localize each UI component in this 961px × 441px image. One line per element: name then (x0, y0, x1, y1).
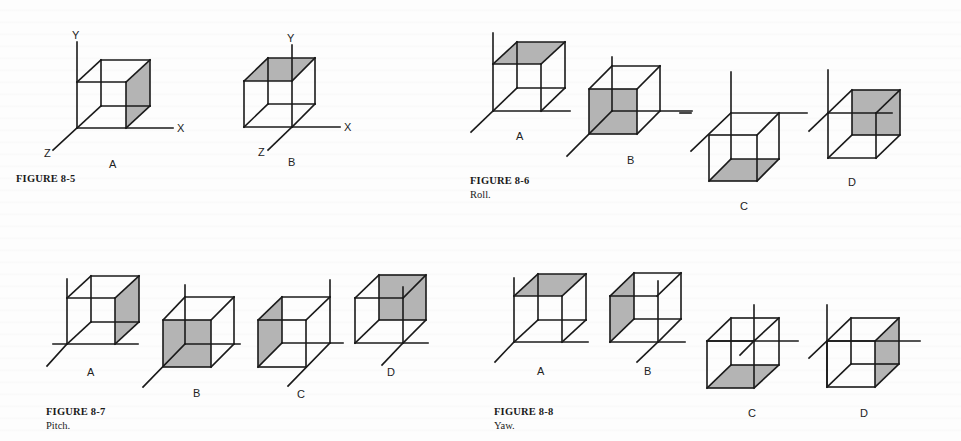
figure-8-7-c-cube (258, 280, 343, 386)
figure-caption: Roll. (470, 190, 491, 201)
axis-label-y: Y (72, 30, 79, 41)
figure-8-5-a-cube (53, 42, 173, 150)
panel-label: B (193, 388, 200, 399)
figure-8-7-d-cube (355, 275, 428, 365)
book-page: Y X Z A Y X Z B FIGURE 8-5 A B C D FIGUR… (0, 0, 961, 441)
panel-label: A (516, 131, 523, 142)
panel-label: D (860, 408, 868, 419)
axis-label-z: Z (44, 148, 51, 159)
panel-label: C (297, 389, 305, 400)
panel-label: C (740, 201, 748, 212)
figure-8-6-c-cube (680, 72, 807, 181)
axis-label-x: X (344, 122, 351, 133)
figure-title: FIGURE 8-5 (16, 174, 75, 185)
figure-8-6-b-cube (567, 57, 692, 156)
panel-label: B (644, 366, 651, 377)
figure-8-6-d-cube (809, 70, 900, 158)
panel-label: C (748, 408, 756, 419)
panel-label: B (627, 155, 634, 166)
figure-title: FIGURE 8-7 (46, 407, 105, 418)
panel-label: A (109, 159, 116, 170)
figure-8-7-a-cube (47, 276, 139, 366)
axis-label-z: Z (258, 147, 265, 158)
figure-title: FIGURE 8-8 (494, 407, 553, 418)
figure-8-8-b-cube (610, 273, 685, 362)
figure-8-6-a-cube (471, 33, 570, 132)
panel-label: A (537, 366, 544, 377)
figures-artwork (0, 0, 961, 441)
figure-8-8-d-cube (809, 305, 920, 387)
panel-label: D (387, 367, 395, 378)
figure-8-8-c-cube (707, 305, 798, 388)
figure-caption: Pitch. (46, 421, 70, 432)
figure-8-7-b-cube (143, 285, 240, 387)
axis-label-x: X (177, 123, 184, 134)
panel-label: A (87, 367, 94, 378)
figure-8-8-a-cube (495, 274, 588, 362)
panel-label: D (848, 177, 856, 188)
axis-label-y: Y (287, 33, 294, 44)
figure-8-5-b-cube (244, 45, 340, 150)
panel-label: B (288, 157, 295, 168)
figure-title: FIGURE 8-6 (470, 176, 529, 187)
figure-caption: Yaw. (494, 421, 515, 432)
